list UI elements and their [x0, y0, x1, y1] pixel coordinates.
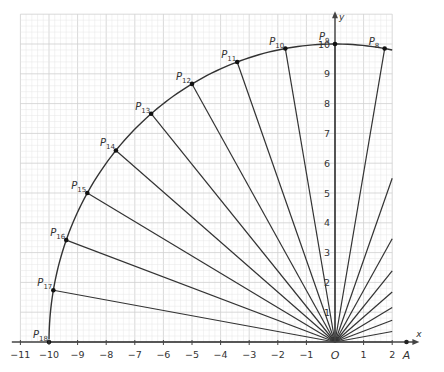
point-label-p13: P13 — [135, 101, 150, 115]
y-tick-label: 10 — [318, 39, 330, 50]
y-axis-label: y — [338, 12, 345, 22]
y-tick-label: 1 — [324, 307, 330, 318]
point-a — [404, 340, 409, 345]
point-label-p17: P17 — [37, 277, 52, 291]
y-tick-label: 7 — [324, 128, 330, 139]
origin-label: O — [331, 349, 340, 362]
x-tick-label: 2 — [389, 349, 395, 360]
y-tick-label: 9 — [324, 68, 330, 79]
point-label-p16: P16 — [50, 227, 65, 241]
y-tick-label: 2 — [324, 277, 330, 288]
x-tick-label: −1 — [299, 349, 313, 360]
x-tick-label: −7 — [128, 349, 142, 360]
x-axis-label: x — [415, 329, 422, 339]
point-p8 — [382, 46, 387, 51]
point-a-label: A — [402, 349, 411, 362]
y-tick-label: 8 — [324, 98, 330, 109]
x-tick-label: −5 — [185, 349, 199, 360]
y-tick-label: 6 — [324, 158, 330, 169]
y-axis-arrow-icon — [332, 11, 338, 18]
x-tick-label: −10 — [39, 349, 59, 360]
point-label-p18: P18 — [33, 329, 48, 343]
point-label-p10: P10 — [269, 36, 284, 50]
y-tick-label: 5 — [324, 188, 330, 199]
semicircle-diagram: xy P8P9P10P11P12P13P14P15P16P17P18 −11−1… — [0, 0, 444, 372]
x-tick-label: −8 — [99, 349, 113, 360]
x-tick-label: −2 — [271, 349, 285, 360]
point-label-p11: P11 — [221, 49, 236, 63]
x-tick-label: 1 — [361, 349, 367, 360]
x-tick-label: −3 — [242, 349, 256, 360]
point-label-p12: P12 — [176, 71, 191, 85]
x-tick-label: −11 — [10, 349, 30, 360]
point-label-p15: P15 — [71, 180, 86, 194]
y-tick-label: 3 — [324, 247, 330, 258]
x-axis-arrow-icon — [412, 339, 419, 345]
x-tick-label: −6 — [156, 349, 170, 360]
y-tick-label: 4 — [324, 217, 330, 228]
x-tick-label: −4 — [214, 349, 228, 360]
point-label-p8: P8 — [369, 36, 380, 50]
x-tick-label: −9 — [71, 349, 85, 360]
point-p9 — [333, 42, 338, 47]
